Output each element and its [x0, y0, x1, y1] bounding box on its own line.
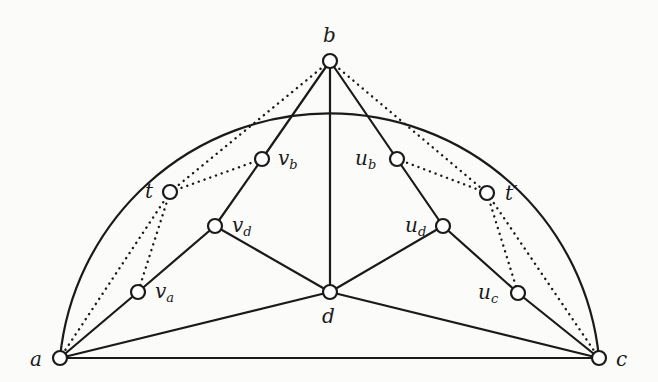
node-v_a — [131, 285, 145, 299]
dotted-edge-t-v_b — [170, 159, 262, 192]
node-b — [323, 54, 337, 68]
node-label-v_b: vb — [278, 146, 298, 172]
node-label-a: a — [30, 347, 42, 371]
node-labels: abcdtt′vbubvdudvauc — [30, 23, 627, 371]
dotted-edge-b-t — [170, 61, 330, 192]
node-v_d — [208, 219, 222, 233]
node-u_d — [436, 219, 450, 233]
node-t_prime — [480, 186, 494, 200]
node-label-d: d — [322, 304, 335, 328]
node-d — [323, 285, 337, 299]
node-label-u_c: uc — [478, 280, 499, 306]
graph-diagram: abcdtt′vbubvdudvauc — [0, 0, 658, 382]
node-v_b — [255, 152, 269, 166]
node-label-b: b — [323, 23, 336, 47]
edge-v_d-v_a — [138, 226, 215, 292]
node-label-u_d: ud — [405, 213, 426, 239]
node-u_b — [390, 152, 404, 166]
edge-u_b-u_d — [397, 159, 443, 226]
node-a — [53, 351, 67, 365]
node-label-t: t — [145, 179, 154, 203]
edge-b-v_b — [262, 61, 330, 159]
dotted-edge-t-a — [60, 192, 170, 358]
node-label-v_d: vd — [232, 213, 252, 239]
node-label-t_prime: t′ — [505, 181, 518, 205]
node-t — [163, 185, 177, 199]
dotted-edge-b-t_prime — [330, 61, 487, 193]
dotted-edge-t_prime-u_b — [397, 159, 487, 193]
node-label-c: c — [616, 347, 627, 371]
node-c — [592, 351, 606, 365]
node-u_c — [511, 286, 525, 300]
node-label-u_b: ub — [355, 146, 376, 172]
edge-b-u_b — [330, 61, 397, 159]
node-label-v_a: va — [155, 279, 174, 305]
